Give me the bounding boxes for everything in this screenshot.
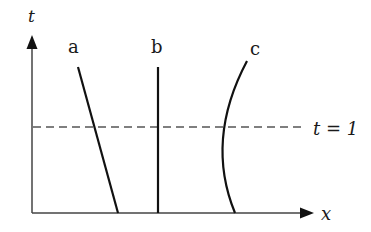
spacetime-diagram: t x t = 1 a b c	[0, 0, 371, 232]
worldline-b-label: b	[151, 36, 163, 57]
t-axis-label: t	[28, 6, 35, 26]
worldline-c-label: c	[250, 38, 260, 59]
x-axis-arrowhead-icon	[300, 208, 314, 219]
x-axis-label: x	[321, 203, 331, 224]
worldline-c	[223, 61, 248, 213]
t-axis	[27, 35, 38, 213]
worldline-a-label: a	[68, 36, 79, 57]
t-axis-arrowhead-icon	[27, 35, 38, 49]
worldline-a	[78, 67, 118, 213]
t-equals-1-label: t = 1	[313, 118, 358, 139]
x-axis	[32, 208, 314, 219]
